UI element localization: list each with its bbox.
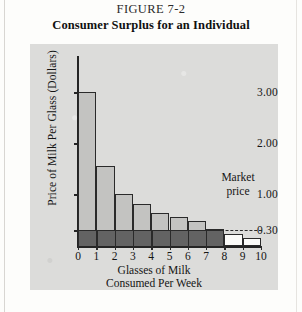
figure-caption: FIGURE 7-2 Consumer Surplus for an Indiv… bbox=[0, 2, 302, 33]
x-tick-label-7: 7 bbox=[197, 250, 215, 262]
y-axis-title: Price of Milk Per Glass (Dollars) bbox=[46, 30, 58, 226]
x-tick-label-1: 1 bbox=[87, 250, 105, 262]
x-axis-title-line1: Glasses of Milk bbox=[54, 264, 254, 277]
band-divider-4 bbox=[151, 231, 152, 246]
figure-number: FIGURE 7-2 bbox=[0, 2, 302, 17]
chart-panel: 3.00 2.00 1.00 0.30 Price of Milk Per Gl… bbox=[30, 44, 278, 290]
x-tick-label-10: 10 bbox=[252, 250, 270, 262]
market-price-label-line2: price bbox=[205, 185, 271, 199]
x-tick-label-2: 2 bbox=[106, 250, 124, 262]
figure-consumer-surplus: FIGURE 7-2 Consumer Surplus for an Indiv… bbox=[0, 0, 302, 312]
bar-9 bbox=[224, 234, 242, 246]
band-divider-6 bbox=[188, 231, 189, 246]
plot-area: 3.00 2.00 1.00 0.30 Price of Milk Per Gl… bbox=[30, 44, 278, 290]
band-divider-2 bbox=[115, 231, 116, 246]
x-tick-label-5: 5 bbox=[161, 250, 179, 262]
x-tick-label-3: 3 bbox=[124, 250, 142, 262]
x-axis-title: Glasses of Milk Consumed Per Week bbox=[54, 264, 254, 290]
band-divider-1 bbox=[96, 231, 97, 246]
bar-1 bbox=[78, 92, 96, 246]
x-tick-label-8: 8 bbox=[215, 250, 233, 262]
x-tick-label-0: 0 bbox=[69, 250, 87, 262]
band-divider-7 bbox=[206, 231, 207, 246]
x-axis-title-line2: Consumed Per Week bbox=[54, 277, 254, 290]
x-tick-label-6: 6 bbox=[179, 250, 197, 262]
market-price-dashed-line bbox=[216, 230, 262, 231]
band-divider-3 bbox=[133, 231, 134, 246]
band-divider-5 bbox=[170, 231, 171, 246]
market-price-annotation: Market price bbox=[205, 171, 271, 198]
market-price-label-line1: Market bbox=[205, 171, 271, 185]
bar-10 bbox=[243, 238, 261, 246]
x-tick-label-9: 9 bbox=[234, 250, 252, 262]
x-tick-label-4: 4 bbox=[142, 250, 160, 262]
